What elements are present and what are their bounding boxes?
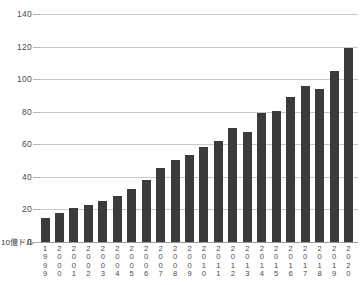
- x-axis-tick-label-digit: 9: [41, 270, 50, 278]
- x-axis-tick-label-digit: 8: [171, 270, 180, 278]
- x-axis-tick-label: 2012: [228, 245, 237, 279]
- x-axis-tick-label-digit: 7: [301, 270, 310, 278]
- x-axis-tick-label: 2005: [127, 245, 136, 279]
- y-axis-tick-label: 140: [17, 10, 32, 19]
- x-axis-tick-label-digit: 1: [214, 270, 223, 278]
- bar-chart: 140120100806040200 10億ドル 199920002001200…: [0, 0, 363, 285]
- x-axis-tick-label: 2006: [142, 245, 151, 279]
- y-axis-tick-label: 40: [22, 172, 32, 181]
- gridline-80: [40, 112, 358, 113]
- bar: [344, 48, 353, 242]
- x-axis-tick-label-digit: 0: [55, 270, 64, 278]
- x-axis-tick-label-digit: 3: [98, 270, 107, 278]
- y-axis-tick-label: 80: [22, 107, 32, 116]
- x-axis-tick-label: 2016: [286, 245, 295, 279]
- y-axis-unit-label: 10億ドル: [1, 238, 34, 247]
- bar: [301, 86, 310, 242]
- x-axis-tick-label: 1999: [41, 245, 50, 279]
- bar: [243, 132, 252, 242]
- x-axis-tick-label-digit: 5: [127, 270, 136, 278]
- x-axis-tick-label-digit: 5: [272, 270, 281, 278]
- x-axis-tick-label-digit: 9: [330, 270, 339, 278]
- y-axis-tick-label: 100: [17, 75, 32, 84]
- x-axis-tick-label-digit: 7: [156, 270, 165, 278]
- x-axis-tick-label: 2000: [55, 245, 64, 279]
- bar: [55, 213, 64, 242]
- gridlines-and-axis: 140120100806040200: [0, 0, 363, 285]
- y-tick-mark-120: [33, 47, 40, 48]
- bar: [185, 155, 194, 242]
- y-axis-tick-label: 60: [22, 140, 32, 149]
- x-axis-tick-label: 2015: [272, 245, 281, 279]
- bars-container: [0, 0, 363, 285]
- x-axis-tick-label: 2008: [171, 245, 180, 279]
- x-axis-tick-label: 2003: [98, 245, 107, 279]
- y-tick-mark-20: [33, 209, 40, 210]
- bar: [41, 218, 50, 242]
- y-tick-mark-100: [33, 79, 40, 80]
- y-tick-mark-60: [33, 144, 40, 145]
- bar: [98, 201, 107, 242]
- gridline-120: [40, 47, 358, 48]
- bar: [257, 113, 266, 242]
- bar: [84, 205, 93, 242]
- gridline-20: [40, 209, 358, 210]
- x-axis-tick-label-digit: 8: [315, 270, 324, 278]
- x-axis-tick-label-digit: 1: [69, 270, 78, 278]
- gridline-140: [40, 14, 358, 15]
- x-axis-tick-label: 2010: [199, 245, 208, 279]
- y-tick-mark-40: [33, 177, 40, 178]
- bar: [171, 160, 180, 242]
- bar: [272, 111, 281, 242]
- x-axis-tick-label: 2018: [315, 245, 324, 279]
- x-axis-tick-label: 2019: [330, 245, 339, 279]
- x-axis-tick-label-digit: 6: [142, 270, 151, 278]
- bar: [228, 128, 237, 242]
- x-axis-tick-label: 2017: [301, 245, 310, 279]
- gridline-40: [40, 177, 358, 178]
- y-axis-tick-label: 120: [17, 42, 32, 51]
- x-axis-tick-label: 2014: [257, 245, 266, 279]
- x-axis-tick-label: 2004: [113, 245, 122, 279]
- bar: [113, 196, 122, 242]
- x-axis-tick-label-digit: 2: [84, 270, 93, 278]
- x-axis-tick-label: 2009: [185, 245, 194, 279]
- gridline-0: [40, 242, 358, 243]
- x-axis-tick-label-digit: 4: [257, 270, 266, 278]
- x-axis-tick-label-digit: 2: [228, 270, 237, 278]
- y-tick-mark-140: [33, 14, 40, 15]
- bar: [286, 97, 295, 242]
- bar: [330, 71, 339, 242]
- x-axis-tick-label-digit: 4: [113, 270, 122, 278]
- x-axis-tick-label-digit: 0: [199, 270, 208, 278]
- x-axis-tick-label-digit: 6: [286, 270, 295, 278]
- x-axis-tick-label: 2007: [156, 245, 165, 279]
- bar: [214, 141, 223, 242]
- x-axis-tick-label: 2002: [84, 245, 93, 279]
- bar: [69, 208, 78, 242]
- x-axis-tick-label-digit: 9: [185, 270, 194, 278]
- x-axis-tick-label-digit: 3: [243, 270, 252, 278]
- bar: [127, 189, 136, 242]
- gridline-100: [40, 79, 358, 80]
- x-axis-tick-label: 2001: [69, 245, 78, 279]
- y-tick-mark-80: [33, 112, 40, 113]
- bar: [199, 147, 208, 242]
- x-axis-tick-label: 2013: [243, 245, 252, 279]
- y-tick-mark-0: [33, 242, 40, 243]
- x-axis-tick-label-digit: 0: [344, 270, 353, 278]
- gridline-60: [40, 144, 358, 145]
- bar: [156, 168, 165, 242]
- x-axis-tick-label: 2011: [214, 245, 223, 279]
- bar: [142, 180, 151, 242]
- bar: [315, 89, 324, 242]
- x-axis-tick-label: 2020: [344, 245, 353, 279]
- y-axis-tick-label: 20: [22, 205, 32, 214]
